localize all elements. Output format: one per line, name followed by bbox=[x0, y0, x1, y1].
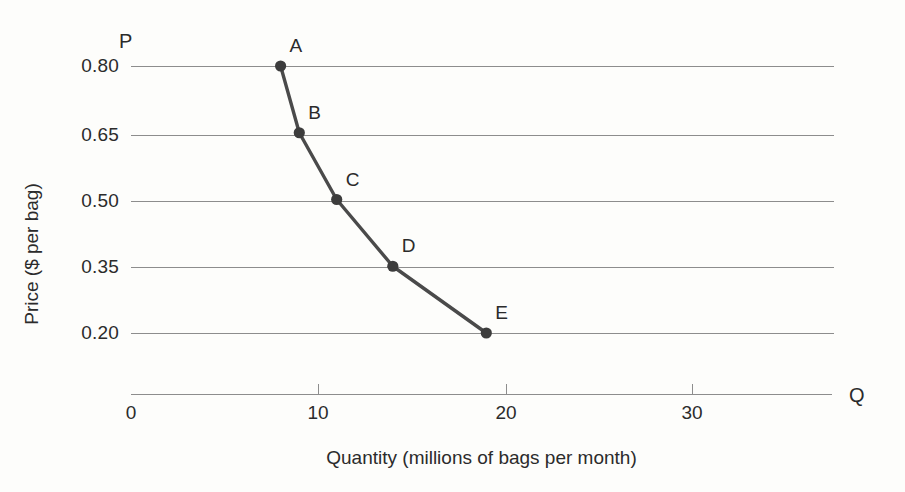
demand-curve-svg bbox=[0, 0, 905, 492]
demand-curve-chart: 0.80 0.65 0.50 0.35 0.20 0 10 20 30 P Q … bbox=[0, 0, 905, 492]
data-point-c bbox=[331, 194, 342, 205]
data-point-label-e: E bbox=[495, 302, 508, 324]
data-point-b bbox=[294, 127, 305, 138]
data-point-d bbox=[387, 261, 398, 272]
data-point-a bbox=[275, 60, 286, 71]
data-point-label-b: B bbox=[308, 102, 321, 124]
data-point-e bbox=[481, 327, 492, 338]
data-point-label-a: A bbox=[290, 35, 303, 57]
data-point-label-d: D bbox=[402, 235, 416, 257]
data-point-label-c: C bbox=[346, 169, 360, 191]
